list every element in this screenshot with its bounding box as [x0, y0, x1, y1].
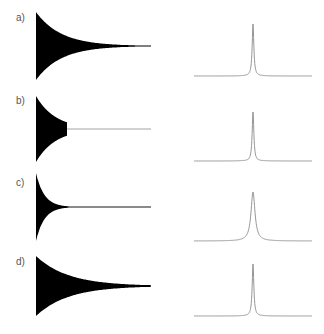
waveform-a: [36, 12, 151, 80]
waveform-b: [36, 96, 151, 162]
plot-canvas: [0, 0, 324, 334]
waveform-envelope: [36, 256, 151, 316]
spectrum-line: [194, 192, 312, 241]
spectrum-line: [194, 264, 312, 316]
spectrum-b: [194, 112, 312, 161]
spectrum-d: [194, 264, 312, 316]
waveform-envelope: [36, 12, 151, 80]
figure: a) b) c) d): [0, 0, 324, 334]
spectrum-a: [194, 24, 312, 76]
waveform-envelope: [36, 96, 67, 162]
spectrum-c: [194, 192, 312, 241]
waveform-c: [36, 173, 151, 241]
waveform-d: [36, 256, 151, 316]
spectrum-line: [194, 112, 312, 161]
spectrum-line: [194, 24, 312, 76]
